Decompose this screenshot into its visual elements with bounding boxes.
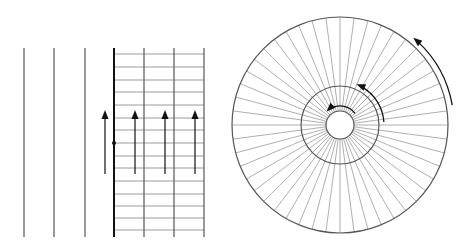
- radial-spoke: [326, 139, 338, 232]
- radial-spoke: [351, 134, 426, 191]
- radial-spoke: [349, 39, 406, 114]
- radial-spoke: [264, 135, 330, 201]
- radial-spoke: [233, 111, 326, 123]
- radial-spoke: [233, 127, 326, 139]
- marker-dot: [112, 141, 116, 145]
- radial-spoke: [264, 49, 330, 115]
- velocity-arrow-head-icon: [102, 110, 109, 119]
- velocity-arrow-head-icon: [192, 110, 199, 119]
- radial-spoke: [342, 139, 354, 232]
- radial-spoke: [350, 135, 416, 201]
- streamline-panel: [24, 48, 204, 237]
- radial-spoke: [354, 111, 447, 123]
- radial-spoke: [326, 18, 338, 111]
- radial-spoke: [349, 136, 406, 211]
- radial-spoke: [354, 127, 447, 139]
- radial-spoke: [342, 18, 354, 111]
- radial-spoke: [274, 136, 331, 211]
- velocity-arrow-head-icon: [162, 110, 169, 119]
- radial-spoke: [254, 59, 329, 116]
- radial-spoke: [274, 39, 331, 114]
- inner-circle: [326, 111, 354, 139]
- diagram-canvas: [0, 0, 473, 250]
- velocity-arrow-head-icon: [132, 110, 139, 119]
- vortex-panel: [232, 17, 452, 233]
- radial-spoke: [350, 49, 416, 115]
- radial-spoke: [254, 134, 329, 191]
